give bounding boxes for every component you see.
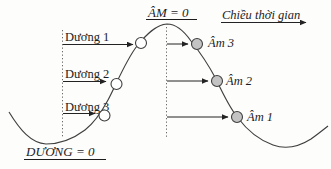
am-2-marker <box>212 76 223 87</box>
duong-3-marker <box>99 110 110 121</box>
am-zero-label: ÂM = 0 <box>147 5 189 20</box>
time-direction-label: Chiều thời gian <box>222 8 300 22</box>
duong-2-label: Dương 2 <box>65 67 109 81</box>
wave-curve <box>9 24 328 147</box>
time-direction-annotation: Chiều thời gian <box>221 8 306 23</box>
duong-1-annotation: Dương 1 <box>63 30 147 49</box>
am-3-annotation: Âm 3 <box>167 36 234 50</box>
am-2-annotation: Âm 2 <box>167 74 252 88</box>
am-1-label: Âm 1 <box>246 110 273 124</box>
duong-3-annotation: Dương 3 <box>63 100 110 122</box>
am-zero-annotation: ÂM = 0 <box>146 5 197 20</box>
wave-diagram-canvas: ÂM = 0 Chiều thời gian DƯƠNG = 0 Dương 1… <box>0 0 331 169</box>
duong-1-marker <box>136 38 147 49</box>
duong-1-label: Dương 1 <box>65 30 109 44</box>
duong-2-annotation: Dương 2 <box>63 67 122 90</box>
wave-timing-diagram: ÂM = 0 Chiều thời gian DƯƠNG = 0 Dương 1… <box>0 0 331 169</box>
am-3-marker <box>192 39 203 50</box>
am-3-label: Âm 3 <box>207 36 234 50</box>
am-2-label: Âm 2 <box>225 74 252 88</box>
duong-zero-annotation: DƯƠNG = 0 <box>24 144 106 160</box>
duong-zero-label: DƯƠNG = 0 <box>25 144 95 159</box>
duong-2-marker <box>111 79 122 90</box>
am-1-marker <box>232 112 243 123</box>
am-1-annotation: Âm 1 <box>167 110 273 124</box>
